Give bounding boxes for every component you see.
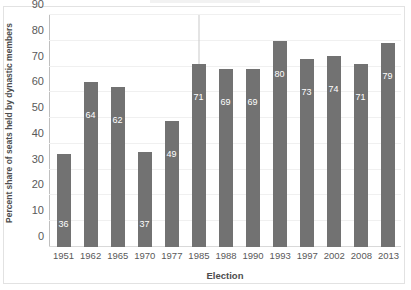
bar-slot: 71 (185, 15, 212, 247)
bar-slot: 37 (131, 15, 158, 247)
y-axis-tick-label: 0 (4, 231, 44, 242)
bar-value-label: 69 (247, 98, 257, 107)
x-axis-tick-label: 1993 (267, 250, 294, 262)
bar-value-label: 73 (301, 88, 311, 97)
bar-slot: 69 (239, 15, 266, 247)
y-axis-tick-label: 60 (4, 76, 44, 87)
x-axis-tick-label: 1951 (50, 250, 77, 262)
bar[interactable] (84, 82, 98, 247)
x-axis-tick-label: 1965 (104, 250, 131, 262)
bar-slot: 64 (77, 15, 104, 247)
bar-slot: 49 (158, 15, 185, 247)
x-axis-tick-label: 1988 (212, 250, 239, 262)
bar-value-label: 62 (112, 116, 122, 125)
bar-value-label: 69 (220, 98, 230, 107)
bar-slot: 36 (50, 15, 77, 247)
bar-value-label: 71 (193, 93, 203, 102)
y-axis-tick-label: 90 (4, 0, 44, 10)
bar[interactable] (57, 154, 71, 247)
y-axis-tick-label: 80 (4, 24, 44, 35)
bar[interactable] (219, 69, 233, 247)
bar-value-label: 74 (328, 85, 338, 94)
x-axis-tick-label: 1985 (185, 250, 212, 262)
x-axis-tick-label: 1962 (77, 250, 104, 262)
y-axis-tick-label: 70 (4, 50, 44, 61)
y-axis-tick-label: 20 (4, 179, 44, 190)
x-axis-tick-label: 1997 (294, 250, 321, 262)
x-axis-tick-label: 1970 (131, 250, 158, 262)
x-axis-title: Election (49, 270, 401, 281)
y-axis-tick-label: 30 (4, 153, 44, 164)
bar-value-label: 36 (58, 220, 68, 229)
bar-value-label: 49 (166, 150, 176, 159)
bar-slot: 80 (266, 15, 293, 247)
chart-frame: Percent share of seats held by dynastic … (3, 6, 405, 284)
bar[interactable] (138, 152, 152, 247)
bar-slot: 79 (374, 15, 401, 247)
x-axis-tick-label: 2002 (321, 250, 348, 262)
x-axis-tick-label: 1990 (240, 250, 267, 262)
bar-slot: 73 (293, 15, 320, 247)
bar-slot: 62 (104, 15, 131, 247)
x-axis-tick-label: 1977 (158, 250, 185, 262)
bar-series: 36646237497169698073747179 (50, 15, 401, 247)
bar-value-label: 37 (139, 220, 149, 229)
y-axis-tick-label: 10 (4, 205, 44, 216)
x-axis-ticks: 1951196219651970197719851988199019931997… (50, 250, 402, 262)
bar[interactable] (165, 121, 179, 247)
bar[interactable] (246, 69, 260, 247)
y-axis-tick-label: 50 (4, 102, 44, 113)
cropped-title-remnant (150, 0, 260, 3)
y-axis-tick-label: 40 (4, 127, 44, 138)
bar-slot: 74 (320, 15, 347, 247)
bar-slot: 71 (347, 15, 374, 247)
bar[interactable] (111, 87, 125, 247)
error-bar (198, 15, 199, 64)
bar-value-label: 80 (274, 70, 284, 79)
bar-value-label: 64 (85, 111, 95, 120)
bar-value-label: 71 (355, 93, 365, 102)
x-axis-tick-label: 2008 (348, 250, 375, 262)
x-axis-tick-label: 2013 (375, 250, 402, 262)
bar-value-label: 79 (382, 72, 392, 81)
bar-slot: 69 (212, 15, 239, 247)
plot-area: 0102030405060708090 36646237497169698073… (49, 15, 401, 247)
